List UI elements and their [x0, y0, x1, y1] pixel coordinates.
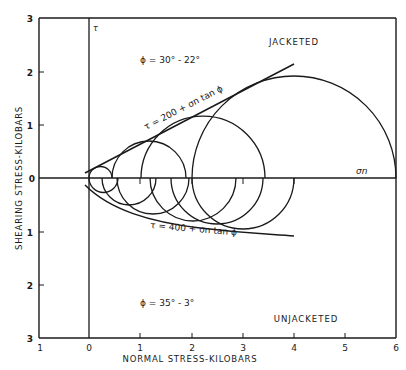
svg-text:4: 4: [291, 343, 297, 353]
svg-text:2: 2: [27, 281, 33, 291]
svg-text:3: 3: [240, 343, 246, 353]
unjacketed-phi: ϕ = 35° - 3°: [140, 298, 194, 308]
svg-text:3: 3: [27, 14, 33, 24]
svg-text:0: 0: [29, 174, 35, 184]
jacketed-label: JACKETED: [268, 37, 319, 47]
x-tick-labels: 1 0 1 2 3 4 5 6: [37, 343, 399, 353]
x-axis-title: NORMAL STRESS-KILOBARS: [122, 354, 257, 364]
svg-text:2: 2: [189, 343, 195, 353]
jacketed-envelope-label: τ = 200 + σn tan ϕ: [142, 83, 224, 131]
y-tick-labels: 3 2 1 0 1 2 3: [27, 14, 35, 344]
svg-text:0: 0: [86, 343, 92, 353]
svg-text:1: 1: [37, 343, 43, 353]
svg-text:1: 1: [27, 121, 33, 131]
svg-text:6: 6: [393, 343, 399, 353]
mohr-circle-chart: 3 2 1 0 1 2 3 1 0 1 2 3 4 5 6 NORMAL STR…: [0, 0, 406, 370]
svg-text:1: 1: [27, 228, 33, 238]
y-axis-title: SHEARING STRESS-KILOBARS: [14, 106, 24, 250]
tau-label: τ: [93, 24, 98, 33]
jacketed-envelope: [85, 64, 294, 173]
svg-text:5: 5: [342, 343, 348, 353]
svg-text:1: 1: [137, 343, 143, 353]
unjacketed-label: UNJACKETED: [274, 314, 339, 324]
svg-text:2: 2: [27, 68, 33, 78]
unjacketed-circles: [89, 178, 294, 229]
jacketed-phi: ϕ = 30° - 22°: [140, 55, 200, 65]
svg-text:3: 3: [27, 334, 33, 344]
sigma-n-label: σn: [356, 166, 368, 176]
